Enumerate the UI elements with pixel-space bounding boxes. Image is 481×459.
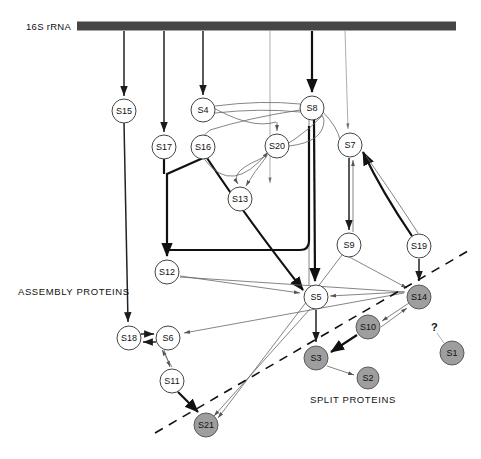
edge-S3-to-S2 <box>327 366 354 375</box>
node-S20[interactable]: S20 <box>265 134 289 158</box>
node-S17[interactable]: S17 <box>152 135 176 159</box>
node-layer: S15 S17 S16 S4 S8 S20 S7 S13 S9 S19 S12 … <box>112 96 464 437</box>
edge-S8-to-S7 <box>323 112 340 140</box>
edge-S16-to-S5-curve <box>207 158 303 290</box>
node-S11[interactable]: S11 <box>160 369 184 393</box>
node-S8[interactable]: S8 <box>300 96 324 120</box>
node-S3[interactable]: S3 <box>304 346 328 370</box>
question-mark-label: ? <box>431 321 438 333</box>
node-S16[interactable]: S16 <box>191 135 215 159</box>
edge-S10-to-S14 <box>381 308 407 327</box>
node-S14[interactable]: S14 <box>407 285 431 309</box>
edge-S14-to-S10 <box>382 303 409 321</box>
assembly-map-figure: S15 S17 S16 S4 S8 S20 S7 S13 S9 S19 S12 … <box>0 0 481 459</box>
edge-S11-to-S6 <box>162 350 172 367</box>
edge-S11-to-S21 <box>178 392 198 412</box>
edge-S4-to-S20-arc <box>207 104 276 124</box>
node-S9[interactable]: S9 <box>337 233 361 257</box>
rrna-label: 16S rRNA <box>26 21 72 32</box>
node-S13[interactable]: S13 <box>228 187 252 211</box>
node-S15[interactable]: S15 <box>112 99 136 123</box>
edge-S19-to-S7-b <box>366 156 418 233</box>
edge-S10-to-S3 <box>331 335 357 352</box>
node-S7[interactable]: S7 <box>338 133 362 157</box>
node-S18[interactable]: S18 <box>117 326 141 350</box>
edge-S19-to-S7-a <box>363 152 412 236</box>
node-S2[interactable]: S2 <box>357 367 379 389</box>
edge-S16-to-S12-bracket <box>167 158 203 256</box>
edge-S12-rail-right <box>180 277 405 292</box>
edge-S4-to-S8-upper <box>215 102 300 106</box>
node-S10[interactable]: S10 <box>356 315 380 339</box>
ribosome-assembly-diagram: S15 S17 S16 S4 S8 S20 S7 S13 S9 S19 S12 … <box>0 0 481 459</box>
split-proteins-label: SPLIT PROTEINS <box>310 394 396 405</box>
node-S4[interactable]: S4 <box>191 98 215 122</box>
node-S21[interactable]: S21 <box>194 413 218 437</box>
split-edges <box>327 303 444 375</box>
node-S1[interactable]: S1 <box>440 341 464 365</box>
node-S5[interactable]: S5 <box>304 285 328 309</box>
edge-S8-to-S5 <box>314 120 315 281</box>
edge-rrna-to-S7 <box>345 31 348 129</box>
node-S19[interactable]: S19 <box>407 234 431 258</box>
S19-S7-edges <box>363 152 418 236</box>
text-layer: 16S rRNA ASSEMBLY PROTEINS SPLIT PROTEIN… <box>18 21 438 405</box>
rrna-bar <box>77 22 456 31</box>
assembly-proteins-label: ASSEMBLY PROTEINS <box>18 286 130 297</box>
rrna-bar-group <box>77 22 456 31</box>
node-S6[interactable]: S6 <box>156 326 180 350</box>
edge-S1-to-unknown <box>437 333 444 343</box>
node-S12[interactable]: S12 <box>155 260 179 284</box>
edge-S4-to-S8-lower <box>215 110 300 113</box>
